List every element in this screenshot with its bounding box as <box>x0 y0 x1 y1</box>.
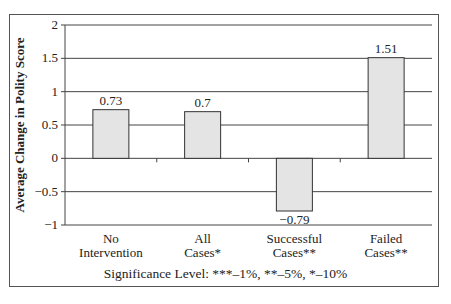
y-tick-label: 1 <box>52 84 59 99</box>
data-label: 0.73 <box>100 93 123 108</box>
x-category-label: Cases* <box>184 245 221 260</box>
data-label: 0.7 <box>195 95 212 110</box>
x-category-label: No <box>103 231 119 246</box>
y-tick-label: 0.5 <box>42 117 58 132</box>
x-category-label: Cases** <box>273 245 316 260</box>
y-tick-label: −0.5 <box>34 184 58 199</box>
y-tick-label: −1 <box>44 217 58 232</box>
x-category-label: Successful <box>267 231 323 246</box>
x-category-label: All <box>194 231 211 246</box>
bar <box>93 110 129 159</box>
bar <box>185 112 221 159</box>
y-axis-label: Average Change in Polity Score <box>12 37 27 212</box>
y-tick-label: 0 <box>52 150 59 165</box>
x-category-label: Failed <box>370 231 403 246</box>
x-category-label: Intervention <box>79 245 143 260</box>
bar <box>368 58 404 159</box>
bar-chart: 21.510.50−0.5−1Average Change in Polity … <box>0 0 451 304</box>
y-tick-label: 2 <box>52 17 59 32</box>
x-category-label: Cases** <box>364 245 407 260</box>
data-label: −0.79 <box>279 212 309 227</box>
significance-note: Significance Level: ***–1%, **–5%, *–10% <box>0 266 451 282</box>
y-tick-label: 1.5 <box>42 50 58 65</box>
bar <box>276 158 312 211</box>
data-label: 1.51 <box>375 41 398 56</box>
